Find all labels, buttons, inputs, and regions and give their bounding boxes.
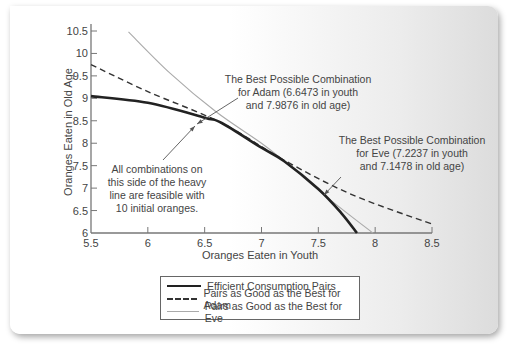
solid-line-swatch-icon <box>167 285 201 287</box>
dashed-line-swatch-icon <box>167 298 197 300</box>
y-tick-label: 7 <box>82 182 88 194</box>
y-tick-label: 7.5 <box>73 160 88 172</box>
x-tick-label: 6.5 <box>197 237 212 249</box>
annotation-text-eve: The Best Possible Combination <box>339 134 486 146</box>
annotation-text-adam: and 7.9876 in old age) <box>246 99 351 111</box>
y-axis-title: Oranges Eaten in Old Age <box>62 68 74 196</box>
arrowhead-icon <box>197 119 203 124</box>
legend-item-eve: Pairs as Good as the Best for Eve <box>167 305 353 318</box>
annotation-text-adam: for Adam (6.6473 in youth <box>238 86 358 98</box>
annotation-text-eve: for Eve (7.2237 in youth <box>356 147 468 159</box>
legend: Efficient Consumption Pairs Pairs as Goo… <box>160 276 360 320</box>
annotation-text-feasible: line are feasible with <box>109 189 204 201</box>
y-tick-label: 8 <box>82 137 88 149</box>
y-tick-label: 10.5 <box>67 25 88 37</box>
y-tick-label: 8.5 <box>73 115 88 127</box>
annotations: The Best Possible Combinationfor Adam (6… <box>108 73 486 214</box>
y-tick-label: 9 <box>82 92 88 104</box>
legend-label: Pairs as Good as the Best for Eve <box>205 300 353 324</box>
thin-line-swatch-icon <box>167 311 199 312</box>
y-tick-label: 10 <box>76 47 88 59</box>
annotation-text-feasible: this side of the heavy <box>108 176 207 188</box>
annotation-arrow-feasible <box>163 126 195 160</box>
x-tick-label: 8.5 <box>424 237 439 249</box>
annotation-text-feasible: All combinations on <box>111 163 202 175</box>
x-tick-label: 7 <box>258 237 264 249</box>
annotation-text-adam: The Best Possible Combination <box>225 73 372 85</box>
y-tick-label: 9.5 <box>73 70 88 82</box>
x-tick-label: 6 <box>145 237 151 249</box>
x-axis-title: Oranges Eaten in Youth <box>202 249 318 261</box>
annotation-text-feasible: 10 initial oranges. <box>116 202 198 214</box>
x-tick-label: 5.5 <box>83 237 98 249</box>
x-tick-label: 8 <box>372 237 378 249</box>
x-tick-label: 7.5 <box>311 237 326 249</box>
annotation-text-eve: and 7.1478 in old age) <box>360 160 465 172</box>
y-tick-label: 6.5 <box>73 205 88 217</box>
